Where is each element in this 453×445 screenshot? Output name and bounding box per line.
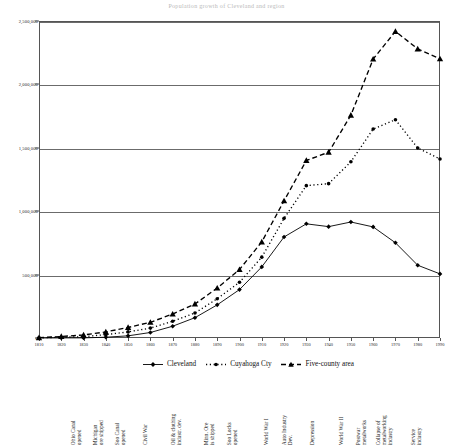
event-annotation-line: Dev.	[287, 415, 293, 445]
event-annotation: Michiganore shipped	[92, 420, 104, 445]
event-annotation: World War I	[263, 418, 269, 445]
event-annotation-line: opened	[231, 422, 237, 445]
event-annotation-line: Ohio Canal	[69, 420, 75, 445]
series-five-county-area	[36, 28, 443, 340]
event-annotation: Soo Locksopened	[225, 422, 237, 445]
chart-legend: ClevelandCuyahoga CtyFive-county area	[128, 357, 368, 371]
event-annotation-line: World War II	[338, 417, 344, 445]
event-annotation-line: Oil & clothing	[170, 414, 176, 445]
event-annotation-line: Soo Locks	[225, 422, 231, 445]
event-annotation-line: Depression	[309, 421, 315, 445]
legend-label: Five-county area	[305, 360, 354, 368]
event-annotation: Ohio Canalopened	[69, 420, 81, 445]
event-annotation-line: opened	[75, 420, 81, 445]
event-annotation: Civil War	[142, 424, 148, 445]
event-annotation-line: Civil War	[142, 424, 148, 445]
event-annotation-line: metalworks	[361, 420, 367, 445]
event-annotation-line: industr. dev.	[176, 414, 182, 445]
series-cuyahoga-cty	[37, 118, 442, 340]
legend-swatch-circle-icon	[205, 360, 227, 369]
event-annotation: World War II	[338, 417, 344, 445]
event-annotation-line: Michigan	[92, 420, 98, 445]
event-annotation: Serviceindustry	[410, 427, 422, 445]
event-annotation-line: World War I	[263, 418, 269, 445]
series-cleveland	[37, 220, 443, 341]
legend-label: Cleveland	[167, 360, 196, 368]
event-annotation: Soo Canalopened	[114, 423, 126, 445]
legend-swatch-diamond-icon	[142, 360, 164, 369]
legend-item-five-county-area[interactable]: Five-county area	[280, 360, 354, 369]
event-annotation: Auto IndustryDev.	[281, 415, 293, 445]
event-annotation-line: ore shipped	[98, 420, 104, 445]
event-annotation-line: Postwar	[355, 420, 361, 445]
event-annotations: Ohio CanalopenedMichiganore shippedSoo C…	[0, 376, 453, 445]
legend-item-cleveland[interactable]: Cleveland	[142, 360, 196, 369]
event-annotation-line: industry	[387, 415, 393, 445]
legend-swatch-triangle-icon	[280, 360, 302, 369]
legend-item-cuyahoga-cty[interactable]: Cuyahoga Cty	[205, 360, 271, 369]
legend-label: Cuyahoga Cty	[230, 360, 271, 368]
event-annotation: Postwarmetalworks	[355, 420, 367, 445]
event-annotation: Oil & clothingindustr. dev.	[170, 414, 182, 445]
event-annotation-line: opened	[120, 423, 126, 445]
event-annotation: Depression	[309, 421, 315, 445]
population-growth-chart: Population growth of Cleveland and regio…	[0, 0, 453, 445]
event-annotation: Minn. Oreis shipped	[203, 423, 215, 445]
event-annotation: Collapse ofmetalworkingindustry	[375, 415, 393, 445]
event-annotation-line: industry	[416, 427, 422, 445]
event-annotation-line: is shipped	[209, 423, 215, 445]
